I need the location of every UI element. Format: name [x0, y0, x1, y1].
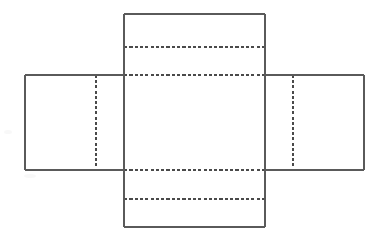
body-face [124, 75, 265, 170]
box-net-figure [0, 0, 386, 241]
scan-smudge [4, 130, 12, 134]
scan-smudge [24, 174, 36, 178]
net-diagram-canvas [0, 0, 386, 241]
top-flap-face [124, 14, 265, 75]
left-panel-face [25, 75, 124, 170]
right-panel-face [265, 75, 364, 170]
